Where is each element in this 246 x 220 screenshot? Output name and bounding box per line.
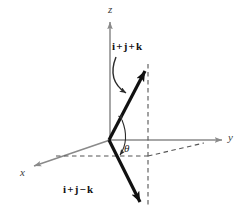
vector-label-i-plus-j-plus-k: i+j+k <box>112 41 142 52</box>
y-axis-label: y <box>228 132 233 143</box>
z-axis-label: z <box>108 4 112 15</box>
leader-arrow-to-top-vector <box>113 57 126 93</box>
unit-vector-k: k <box>136 40 142 52</box>
minus-operator: − <box>79 183 87 195</box>
unit-vector-k: k <box>87 183 93 195</box>
plus-operator-1: + <box>115 40 123 52</box>
vector-diagram-figure: z y x i+j+k i+j−k θ <box>0 0 246 220</box>
vector-group <box>109 71 145 202</box>
diagram-canvas <box>0 0 246 220</box>
vector-label-i-plus-j-minus-k: i+j−k <box>63 184 93 195</box>
x-axis-label: x <box>20 167 25 178</box>
dashed-xy-plane-diagonal <box>148 143 204 156</box>
plus-operator-1: + <box>66 183 74 195</box>
x-axis-line <box>34 140 110 166</box>
plus-operator-2: + <box>128 40 136 52</box>
theta-angle-label: θ <box>124 143 129 154</box>
